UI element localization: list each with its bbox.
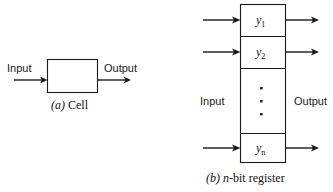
register-output-arrow-2 bbox=[286, 48, 320, 55]
register-caption-marker: (b) bbox=[206, 171, 220, 185]
figure-line-art bbox=[0, 0, 333, 192]
register-output-label: Output bbox=[294, 95, 327, 107]
cell-caption-marker: (a) bbox=[51, 98, 65, 112]
register-caption-rest: -bit register bbox=[229, 171, 285, 185]
cell-input-label: Input bbox=[7, 62, 31, 74]
register-cell-sub-2: 2 bbox=[261, 52, 265, 61]
cell-output-label: Output bbox=[104, 62, 137, 74]
register-cell-label-1: y1 bbox=[256, 14, 265, 26]
register-caption: (b) n-bit register bbox=[206, 172, 285, 185]
cell-caption-text: Cell bbox=[68, 98, 88, 112]
register-input-label: Input bbox=[200, 95, 224, 107]
cell-caption: (a) Cell bbox=[51, 99, 88, 112]
register-output-arrow-1 bbox=[286, 16, 320, 23]
register-input-arrow-1 bbox=[203, 16, 241, 23]
register-input-arrow-n bbox=[203, 144, 241, 151]
cell-box bbox=[48, 60, 98, 93]
register-input-arrow-2 bbox=[203, 48, 241, 55]
register-ellipsis-dots bbox=[260, 87, 262, 115]
register-cell-sub-1: 1 bbox=[261, 20, 265, 29]
register-cell-sub-n: n bbox=[261, 148, 265, 157]
cell-output-arrow bbox=[98, 77, 132, 84]
register-output-arrow-n bbox=[286, 144, 320, 151]
figure-root: Input Output (a) Cell Input Output y1 y2… bbox=[0, 0, 333, 192]
register-cell-label-2: y2 bbox=[256, 46, 265, 58]
register-cell-label-n: yn bbox=[256, 142, 265, 154]
cell-input-arrow bbox=[14, 77, 48, 84]
